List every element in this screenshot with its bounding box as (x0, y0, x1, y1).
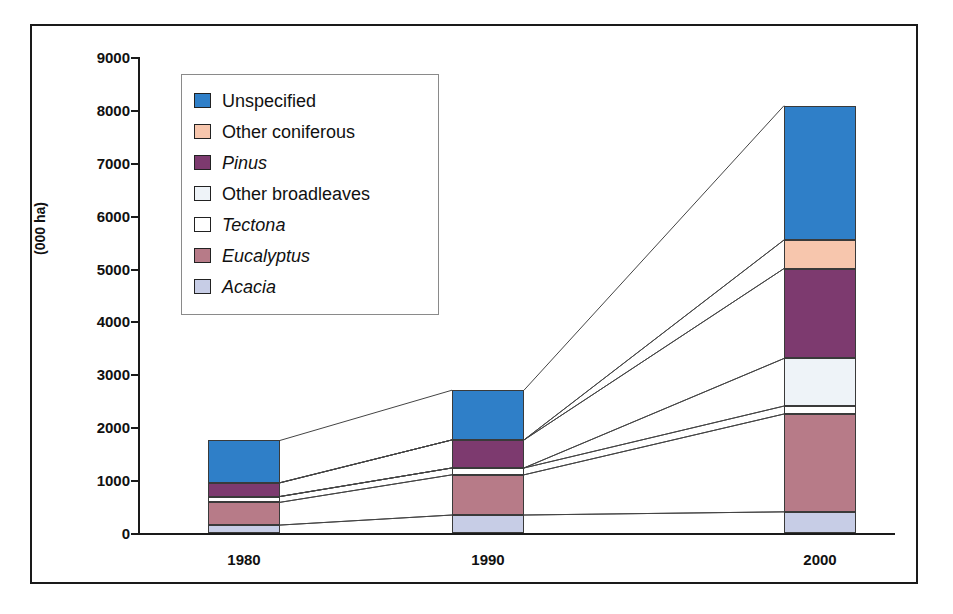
y-axis-label: (000 ha) (32, 135, 48, 255)
y-axis-tick-label: 2000 (60, 419, 130, 436)
legend-item-label: Other coniferous (222, 123, 355, 141)
y-axis-tick-label: 3000 (60, 366, 130, 383)
legend-swatch-icon (194, 248, 211, 263)
bar-segment-unspecified[interactable] (208, 440, 280, 482)
bar-segment-eucalyptus[interactable] (208, 502, 280, 525)
legend-swatch-icon (194, 279, 211, 294)
legend-swatch-icon (194, 186, 211, 201)
bar-segment-acacia[interactable] (208, 525, 280, 533)
bar-segment-pinus[interactable] (784, 269, 856, 359)
legend-swatch-icon (194, 217, 211, 232)
legend-item-tectona[interactable]: Tectona (194, 209, 426, 240)
y-axis-tick-label: 5000 (60, 260, 130, 277)
legend-item-label: Pinus (222, 154, 267, 172)
legend-swatch-icon (194, 124, 211, 139)
legend-item-other-coniferous[interactable]: Other coniferous (194, 116, 426, 147)
bar-segment-other-broadleaves[interactable] (784, 358, 856, 406)
y-axis-tick-label: 7000 (60, 154, 130, 171)
bar-2000[interactable] (784, 57, 856, 533)
legend-swatch-icon (194, 155, 211, 170)
chart-legend: UnspecifiedOther coniferousPinusOther br… (181, 74, 439, 315)
legend-item-eucalyptus[interactable]: Eucalyptus (194, 240, 426, 271)
legend-item-acacia[interactable]: Acacia (194, 271, 426, 302)
bar-segment-unspecified[interactable] (784, 106, 856, 240)
stacked-bar-chart: (000 ha) 0100020003000400050006000700080… (0, 0, 953, 614)
bar-segment-pinus[interactable] (208, 483, 280, 497)
bar-segment-tectona[interactable] (784, 406, 856, 414)
x-axis-line (138, 533, 895, 535)
y-axis-tick-label: 4000 (60, 313, 130, 330)
legend-item-label: Unspecified (222, 92, 316, 110)
legend-item-label: Acacia (222, 278, 276, 296)
bar-segment-acacia[interactable] (784, 512, 856, 533)
bar-1990[interactable] (452, 57, 524, 533)
x-axis-tick-label: 1980 (227, 551, 260, 568)
bar-segment-pinus[interactable] (452, 440, 524, 468)
bar-segment-other-coniferous[interactable] (784, 240, 856, 269)
bar-segment-tectona[interactable] (208, 497, 280, 503)
x-axis-tick-label: 2000 (803, 551, 836, 568)
y-axis-tick-label: 6000 (60, 207, 130, 224)
bar-segment-unspecified[interactable] (452, 390, 524, 440)
bar-segment-eucalyptus[interactable] (784, 414, 856, 512)
legend-swatch-icon (194, 93, 211, 108)
legend-item-pinus[interactable]: Pinus (194, 147, 426, 178)
legend-item-label: Other broadleaves (222, 185, 370, 203)
legend-item-label: Tectona (222, 216, 285, 234)
x-axis-tick-label: 1990 (471, 551, 504, 568)
legend-item-other-broadleaves[interactable]: Other broadleaves (194, 178, 426, 209)
y-axis-tick-label: 9000 (60, 49, 130, 66)
y-axis-tick-label: 8000 (60, 101, 130, 118)
legend-item-label: Eucalyptus (222, 247, 310, 265)
bar-segment-tectona[interactable] (452, 468, 524, 475)
y-axis-tick-label: 0 (60, 525, 130, 542)
bar-segment-eucalyptus[interactable] (452, 475, 524, 515)
legend-item-unspecified[interactable]: Unspecified (194, 85, 426, 116)
y-axis-line (138, 57, 140, 533)
bar-segment-acacia[interactable] (452, 515, 524, 533)
y-axis-tick-label: 1000 (60, 472, 130, 489)
